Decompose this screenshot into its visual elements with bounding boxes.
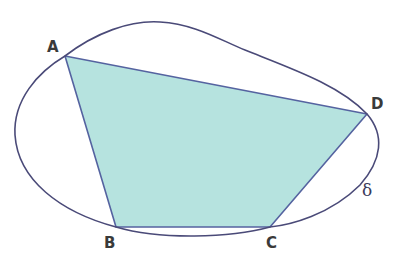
vertex-label-b: B	[104, 234, 115, 252]
diagram-canvas: A B C D δ	[0, 0, 399, 263]
diagram-svg: A B C D δ	[0, 0, 399, 263]
vertex-label-d: D	[371, 95, 383, 113]
vertex-label-c: C	[266, 234, 277, 252]
vertex-label-a: A	[47, 38, 59, 56]
curve-label-delta: δ	[362, 180, 372, 200]
